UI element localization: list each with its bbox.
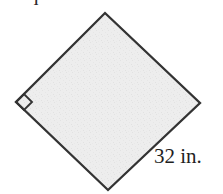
side-length-label: 32 in.	[154, 145, 202, 168]
square-figure: Square 32 in.	[0, 0, 223, 194]
